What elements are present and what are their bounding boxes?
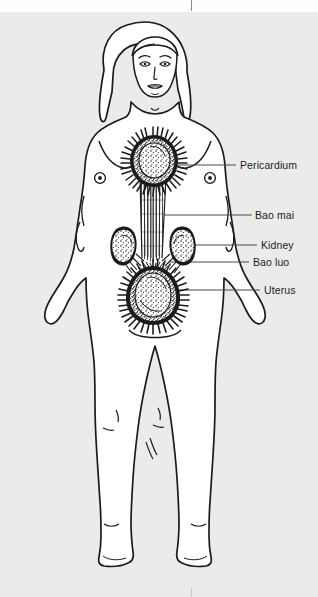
label-kidney: Kidney	[261, 240, 294, 251]
label-bao-luo: Bao luo	[253, 257, 289, 268]
organ-bao-mai	[140, 176, 166, 262]
anatomical-figure	[0, 0, 318, 597]
label-bao-mai: Bao mai	[255, 210, 294, 221]
figure-page: Pericardium Bao mai Kidney Bao luo Uteru…	[0, 0, 318, 597]
label-uterus: Uterus	[264, 285, 296, 296]
label-pericardium: Pericardium	[240, 160, 297, 171]
